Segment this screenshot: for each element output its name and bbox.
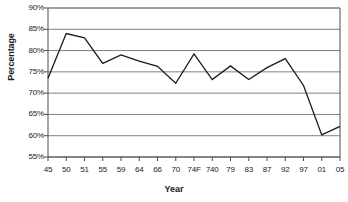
x-axis-tick-label: 83 [245,165,254,174]
x-axis-tick-label: 59 [117,165,126,174]
x-axis-tick-label: 97 [299,165,308,174]
x-axis-ticks [48,157,340,161]
x-axis-tick-label: 87 [263,165,272,174]
x-axis-tick-label: 79 [226,165,235,174]
x-axis-tick-label: 92 [281,165,290,174]
x-axis-tick-label: 66 [153,165,162,174]
x-axis-tick-label: 740 [206,165,219,174]
x-axis-title: Year [0,184,348,194]
line-chart: Percentage 90%85%80%75%70%65%60%55% 4550… [0,0,348,202]
data-series-line [48,34,340,135]
x-axis-tick-label: 01 [318,165,327,174]
x-axis-tick-label: 45 [44,165,53,174]
x-axis-tick-label: 70 [172,165,181,174]
x-axis-tick-label: 74F [187,165,200,174]
x-axis-tick-label: 05 [336,165,345,174]
x-axis-tick-label: 51 [80,165,89,174]
gridlines [44,8,340,157]
x-axis-tick-label: 64 [135,165,144,174]
axis-frame [48,8,340,157]
x-axis-tick-label: 55 [99,165,108,174]
x-axis-tick-label: 50 [62,165,71,174]
